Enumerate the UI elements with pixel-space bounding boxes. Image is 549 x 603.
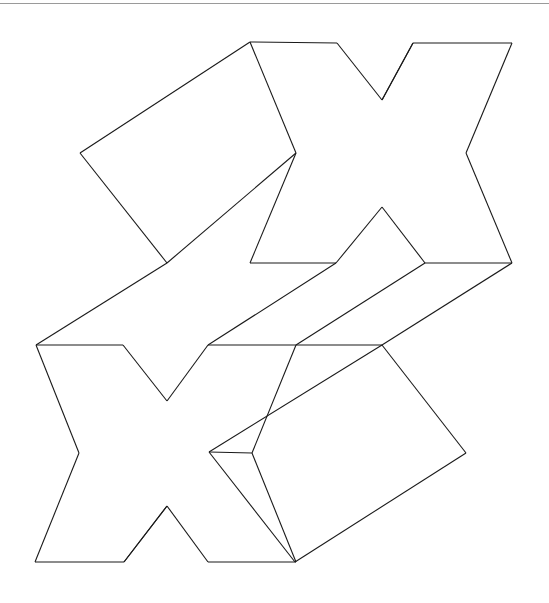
seg-lower-notch-down bbox=[167, 506, 208, 562]
seg-upper-inner-l-down bbox=[336, 207, 382, 263]
seg-lower-left-in bbox=[35, 453, 79, 562]
page-root bbox=[0, 0, 549, 603]
seg-lower-x-mid-l bbox=[123, 345, 167, 401]
seg-band-r-lower bbox=[382, 263, 512, 345]
seg-top-notch-thin bbox=[382, 43, 413, 100]
seg-band-l-upper bbox=[208, 263, 336, 345]
seg-lower-notch-thin bbox=[124, 506, 167, 562]
seg-rect2-bottom bbox=[209, 452, 295, 562]
seg-rect2-right bbox=[295, 453, 466, 562]
seg-rect2-inner bbox=[209, 452, 252, 453]
seg-upper-left-to-apex bbox=[250, 42, 296, 153]
seg-lower-left-out bbox=[36, 345, 79, 453]
seg-rect1-bottom bbox=[167, 153, 296, 263]
seg-upper-inner-r-up bbox=[382, 207, 425, 263]
seg-lower-x-mid-r bbox=[167, 345, 208, 401]
seg-lower-x-r-waist bbox=[252, 453, 296, 562]
seg-lower-x-r-top bbox=[252, 345, 296, 453]
seg-upper-left-waist bbox=[250, 153, 296, 263]
seg-upper-right-in bbox=[466, 43, 512, 153]
seg-rect2-top bbox=[382, 345, 466, 453]
seg-top-left-apex bbox=[250, 42, 337, 43]
seg-band-l-lower bbox=[36, 263, 167, 345]
seg-upper-right-out bbox=[466, 153, 512, 263]
geometric-figure-canvas bbox=[0, 0, 549, 603]
seg-rect1-top bbox=[80, 42, 250, 153]
figure-line-segments bbox=[35, 42, 512, 562]
seg-top-notch-down-left bbox=[337, 43, 382, 100]
seg-band-r-upper bbox=[296, 263, 425, 345]
seg-rect1-left bbox=[80, 153, 167, 263]
seg-rect2-left bbox=[209, 345, 382, 452]
